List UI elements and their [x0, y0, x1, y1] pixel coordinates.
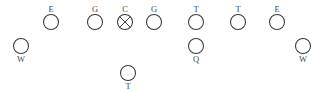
formation-diagram: EGCGTTEWQWT — [0, 0, 320, 91]
player-marker-right-tackle: T — [231, 4, 246, 30]
player-label: G — [151, 4, 157, 14]
player-circle-icon — [88, 15, 103, 30]
player-circle-icon — [270, 15, 285, 30]
player-circle-icon — [231, 15, 246, 30]
players-layer: EGCGTTEWQWT — [14, 4, 311, 91]
player-label: C — [122, 4, 128, 14]
player-marker-quarterback: Q — [189, 39, 204, 64]
player-marker-right-wideout: W — [296, 39, 311, 64]
player-label: G — [92, 4, 98, 14]
player-label: E — [274, 4, 279, 14]
player-label: E — [48, 4, 53, 14]
player-marker-center: C — [118, 4, 133, 30]
player-circle-icon — [121, 66, 136, 81]
formation-diagram-canvas: EGCGTTEWQWT — [0, 0, 320, 91]
player-marker-left-wideout: W — [14, 39, 29, 64]
player-circle-icon — [14, 39, 29, 54]
player-label: W — [299, 54, 307, 64]
player-circle-icon — [189, 39, 204, 54]
player-circle-icon — [147, 15, 162, 30]
player-label: T — [125, 81, 131, 91]
player-marker-left-tackle: T — [189, 4, 204, 30]
player-marker-left-guard: G — [88, 4, 103, 30]
player-label: Q — [193, 54, 199, 64]
player-circle-icon — [296, 39, 311, 54]
player-marker-right-end: E — [270, 4, 285, 30]
player-marker-right-guard: G — [147, 4, 162, 30]
player-circle-icon — [44, 15, 59, 30]
player-circle-icon — [189, 15, 204, 30]
player-label: W — [17, 54, 25, 64]
player-label: T — [193, 4, 199, 14]
player-label: T — [235, 4, 241, 14]
player-marker-left-end: E — [44, 4, 59, 30]
player-marker-tailback: T — [121, 66, 136, 91]
